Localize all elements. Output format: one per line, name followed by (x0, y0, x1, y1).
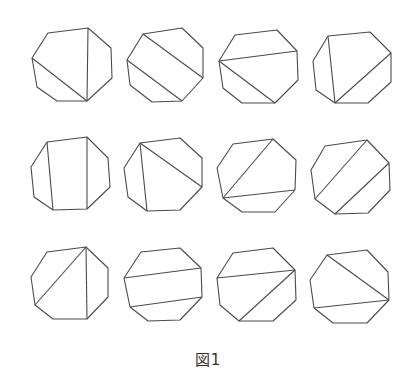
diagonal-line (86, 247, 87, 319)
diagonal-line (327, 255, 389, 300)
octagon-outline (313, 32, 391, 103)
diagonal-line (219, 51, 297, 61)
diagonal-line (314, 300, 389, 308)
diagonal-line (335, 163, 389, 214)
octagon-11 (217, 248, 296, 321)
octagon-9 (31, 247, 108, 319)
diagonal-line (47, 142, 53, 210)
octagon-8 (311, 140, 390, 214)
octagon-2 (127, 28, 203, 102)
diagonal-line (124, 268, 201, 278)
diagonal-line (140, 143, 147, 211)
octagon-outline (124, 248, 202, 321)
octagon-6 (124, 138, 202, 211)
octagon-outline (311, 140, 390, 214)
diagonal-line (217, 270, 295, 278)
octagon-triangulation-figure (0, 0, 416, 390)
diagonal-line (223, 190, 295, 198)
octagon-10 (124, 248, 202, 321)
octagon-outline (217, 248, 296, 321)
diagonal-line (328, 36, 335, 103)
octagon-outline (127, 28, 203, 102)
octagon-outline (310, 250, 389, 323)
octagon-outline (217, 139, 296, 212)
octagon-5 (31, 137, 110, 210)
diagonal-line (127, 60, 182, 101)
octagon-3 (219, 30, 298, 103)
octagon-1 (32, 28, 112, 101)
octagon-outline (31, 247, 108, 319)
octagon-outline (124, 138, 202, 211)
diagonal-line (219, 61, 275, 103)
diagonal-line (87, 28, 88, 101)
diagonal-line (130, 297, 202, 307)
diagonal-line (239, 270, 295, 321)
diagonal-line (335, 53, 391, 103)
octagon-outline (32, 28, 112, 101)
octagon-4 (313, 32, 391, 103)
octagon-outline (219, 30, 298, 103)
octagon-12 (310, 250, 389, 323)
figure-caption: 図1 (0, 348, 416, 369)
octagon-7 (217, 139, 296, 212)
diagonal-line (35, 247, 86, 305)
octagon-outline (31, 137, 110, 210)
diagonal-line (32, 58, 87, 101)
diagonal-line (143, 34, 203, 78)
